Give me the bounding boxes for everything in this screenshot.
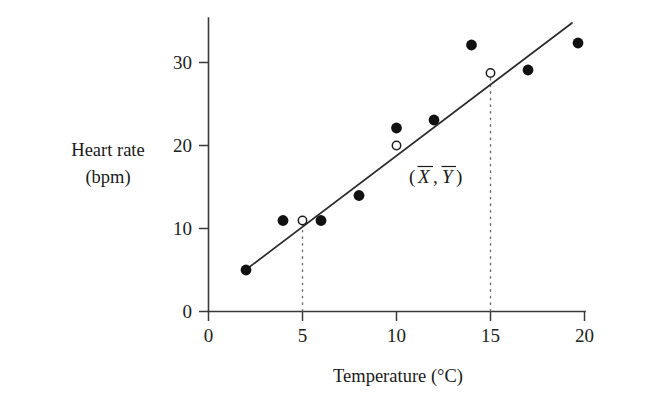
mean-label-open-paren: ( xyxy=(409,166,415,188)
mean-point-label: ( X , Y ) xyxy=(409,166,462,188)
data-point xyxy=(278,215,289,226)
x-tick-label-10: 10 xyxy=(387,325,406,346)
mean-point-marker xyxy=(392,141,400,149)
x-tick-label-15: 15 xyxy=(481,325,500,346)
y-tick-label-20: 20 xyxy=(173,135,192,156)
data-point xyxy=(573,38,584,49)
data-points-observations xyxy=(241,38,584,276)
data-point xyxy=(429,115,440,126)
scatter-plot-figure: 0 10 20 30 0 5 10 15 20 xyxy=(0,0,660,405)
regression-line xyxy=(246,23,573,270)
mean-label-comma: , xyxy=(433,166,438,187)
x-tick-label-20: 20 xyxy=(575,325,594,346)
mean-label-close-paren: ) xyxy=(456,166,462,188)
y-tick-label-0: 0 xyxy=(183,301,193,322)
x-tick-label-5: 5 xyxy=(298,325,308,346)
line-point-x5 xyxy=(298,216,306,224)
data-point xyxy=(241,265,252,276)
y-tick-label-30: 30 xyxy=(173,52,192,73)
y-axis-title-line1: Heart rate xyxy=(71,140,144,160)
x-tick-label-0: 0 xyxy=(204,325,214,346)
data-point xyxy=(391,123,402,134)
y-axis-title-line2: (bpm) xyxy=(85,167,130,188)
x-axis-title: Temperature (°C) xyxy=(333,366,463,387)
data-point xyxy=(316,215,327,226)
data-point xyxy=(523,65,534,76)
data-point xyxy=(466,40,477,51)
line-point-x15 xyxy=(486,69,494,77)
mean-label-x-symbol: X xyxy=(417,166,431,187)
x-axis-ticks xyxy=(209,312,585,322)
data-points-on-line xyxy=(298,69,494,225)
data-point xyxy=(354,190,365,201)
y-axis-ticks xyxy=(199,63,209,312)
mean-label-y-symbol: Y xyxy=(442,166,455,187)
plot-canvas: 0 10 20 30 0 5 10 15 20 xyxy=(0,0,660,405)
y-tick-label-10: 10 xyxy=(173,218,192,239)
